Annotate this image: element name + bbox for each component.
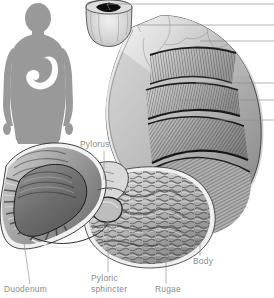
stomach-anatomy-figure: Pylorus Duodenum Pyloric sphincter Rugae… <box>0 0 274 298</box>
label-rugae: Rugae <box>155 284 181 294</box>
label-pylorus: Pylorus <box>80 139 110 149</box>
illustration-canvas: Pylorus Duodenum Pyloric sphincter Rugae… <box>0 0 274 298</box>
label-pyloric-sphincter-line1: Pyloric <box>91 273 118 283</box>
label-pyloric-sphincter-line2: sphincter <box>91 284 127 294</box>
esophagus <box>86 0 132 47</box>
label-body: Body <box>193 256 214 266</box>
label-duodenum: Duodenum <box>4 284 47 294</box>
